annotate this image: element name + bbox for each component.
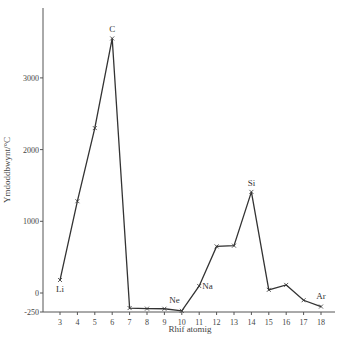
x-tick-label: 14: [247, 318, 255, 327]
x-tick-label: 18: [317, 318, 325, 327]
element-label-c: C: [109, 24, 115, 34]
x-tick-label: 16: [282, 318, 290, 327]
x-tick-label: 3: [58, 318, 62, 327]
y-axis-title: Ymdoddbwynt/°C: [2, 137, 12, 203]
element-label-si: Si: [248, 178, 256, 188]
x-tick-label: 13: [230, 318, 238, 327]
data-line: [60, 38, 321, 310]
element-label-na: Na: [202, 281, 213, 291]
x-tick-label: 4: [75, 318, 79, 327]
x-tick-label: 6: [110, 318, 114, 327]
melting-point-chart: -250010002000300034567891011121314151617…: [0, 0, 340, 345]
x-tick-label: 17: [300, 318, 308, 327]
x-axis-title: Rhif atomig: [168, 324, 212, 334]
y-tick-label: 1000: [23, 217, 39, 226]
x-tick-label: 15: [265, 318, 273, 327]
element-label-ne: Ne: [169, 295, 180, 305]
x-tick-label: 5: [93, 318, 97, 327]
x-tick-label: 9: [162, 318, 166, 327]
element-label-ar: Ar: [316, 291, 326, 301]
y-tick-label: 2000: [23, 146, 39, 155]
y-tick-label: -250: [24, 308, 39, 317]
x-tick-label: 7: [128, 318, 132, 327]
y-tick-label: 0: [35, 289, 39, 298]
y-tick-label: 3000: [23, 74, 39, 83]
element-label-li: Li: [56, 284, 64, 294]
x-tick-label: 8: [145, 318, 149, 327]
x-tick-label: 12: [213, 318, 221, 327]
